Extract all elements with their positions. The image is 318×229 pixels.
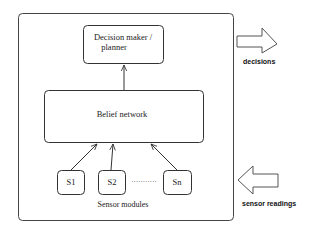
belief-network-node: Belief network — [45, 91, 204, 143]
s1-to-belief-arrow — [71, 144, 97, 170]
sensor-node-sn: Sn — [164, 171, 192, 195]
sensor-label: Sn — [173, 177, 183, 187]
sensor-node-s2: S2 — [99, 171, 126, 195]
system-diagram: Decision maker / planner Belief network … — [0, 0, 318, 229]
sensor-label: S1 — [67, 177, 76, 187]
sensor-ellipsis: ··········· — [131, 178, 157, 186]
decision-maker-label-line2: planner — [101, 42, 127, 52]
decisions-label: decisions — [243, 58, 275, 65]
sensor-readings-label: sensor readings — [242, 200, 296, 208]
belief-network-label: Belief network — [97, 109, 148, 119]
s2-to-belief-arrow — [111, 144, 113, 170]
decision-maker-label-line1: Decision maker / — [94, 32, 153, 42]
sensor-node-s1: S1 — [58, 171, 85, 195]
sensor-label: S2 — [108, 177, 117, 187]
decision-maker-node: Decision maker / planner — [84, 26, 164, 64]
sensor-readings-input-arrow-icon — [238, 166, 278, 194]
sensor-modules-label: Sensor modules — [98, 200, 149, 209]
decisions-output-arrow-icon — [237, 28, 277, 53]
sn-to-belief-arrow — [151, 144, 177, 170]
